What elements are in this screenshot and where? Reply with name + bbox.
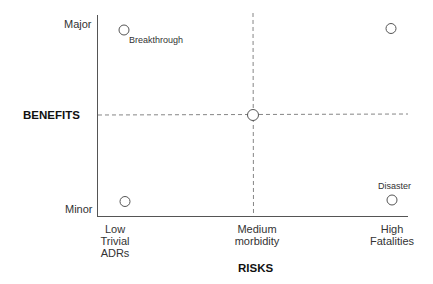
x-tick-medium: Medium morbidity [229,223,285,247]
label-disaster: Disaster [378,181,411,191]
point-center [248,110,259,121]
y-tick-minor: Minor [65,203,93,215]
y-tick-major: Major [64,18,92,30]
x-tick-high-line2: Fatalities [366,235,418,247]
point-disaster [387,195,397,205]
x-tick-medium-line1: Medium [229,223,285,235]
x-axis-title: RISKS [238,262,273,274]
x-tick-high: High Fatalities [366,223,418,247]
point-bottom-left [120,197,130,207]
x-tick-medium-line2: morbidity [229,235,285,247]
x-tick-low: Low Trivial ADRs [100,223,130,259]
x-tick-low-line1: Low [100,223,130,235]
x-tick-low-line3: ADRs [100,247,130,259]
y-axis-title: BENEFITS [23,109,80,121]
x-tick-high-line1: High [366,223,418,235]
point-breakthrough [119,25,129,35]
point-top-right [386,24,396,34]
label-breakthrough: Breakthrough [129,35,183,45]
x-tick-low-line2: Trivial [100,235,130,247]
